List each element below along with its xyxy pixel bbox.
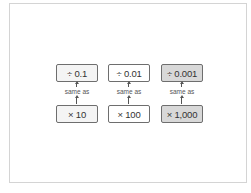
equivalence-column-1: ÷ 0.1 same as × 10 xyxy=(56,64,98,124)
arrow-up-icon xyxy=(76,97,77,104)
same-as-label: same as xyxy=(50,88,104,95)
same-as-label: same as xyxy=(102,88,156,95)
divide-by-0.001-box: ÷ 0.001 xyxy=(161,64,203,82)
equivalence-column-2: ÷ 0.01 same as × 100 xyxy=(108,64,150,124)
arrow-up-icon xyxy=(128,97,129,104)
divide-by-0.01-box: ÷ 0.01 xyxy=(108,64,150,82)
arrow-up-icon xyxy=(181,97,182,104)
same-as-label: same as xyxy=(155,88,209,95)
multiply-by-100-box: × 100 xyxy=(108,105,150,123)
equivalence-column-3: ÷ 0.001 same as × 1,000 xyxy=(161,64,203,124)
arrow-up-icon xyxy=(76,83,77,87)
divide-by-0.1-box: ÷ 0.1 xyxy=(56,64,98,82)
arrow-up-icon xyxy=(128,83,129,87)
multiply-by-1000-box: × 1,000 xyxy=(161,105,203,123)
arrow-up-icon xyxy=(181,83,182,87)
multiply-by-10-box: × 10 xyxy=(56,105,98,123)
